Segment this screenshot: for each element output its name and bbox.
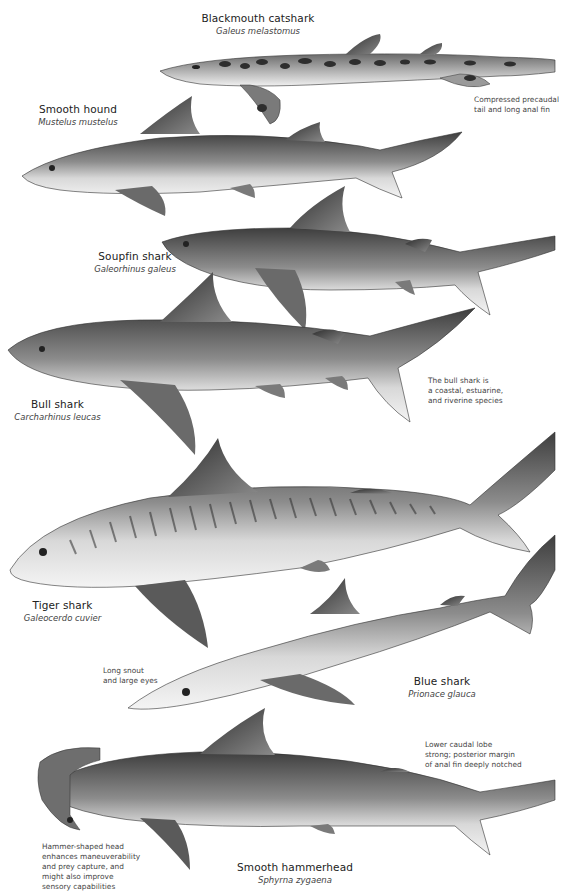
scientific-name: Carcharhinus leucas bbox=[0, 411, 115, 423]
species-label-blue-shark: Blue shark Prionace glauca bbox=[392, 675, 492, 700]
common-name: Smooth hammerhead bbox=[225, 861, 365, 874]
scientific-name: Galeus melastomus bbox=[168, 25, 348, 37]
scientific-name: Mustelus mustelus bbox=[18, 116, 138, 128]
scientific-name: Galeorhinus galeus bbox=[80, 263, 190, 275]
common-name: Bull shark bbox=[0, 398, 115, 411]
note-blue-shark-snout: Long snout and large eyes bbox=[103, 666, 183, 686]
bull-shark-illustration bbox=[8, 272, 475, 455]
note-catshark-tail: Compressed precaudal tail and long anal … bbox=[474, 95, 563, 115]
scientific-name: Prionace glauca bbox=[392, 688, 492, 700]
species-label-bull-shark: Bull shark Carcharhinus leucas bbox=[0, 398, 115, 423]
common-name: Blue shark bbox=[392, 675, 492, 688]
note-bull-shark-habitat: The bull shark is a coastal, estuarine, … bbox=[428, 376, 548, 406]
note-hammerhead-caudal: Lower caudal lobe strong; posterior marg… bbox=[425, 740, 555, 770]
species-label-smooth-hound: Smooth hound Mustelus mustelus bbox=[18, 103, 138, 128]
species-label-tiger-shark: Tiger shark Galeocerdo cuvier bbox=[5, 599, 120, 624]
species-label-soupfin-shark: Soupfin shark Galeorhinus galeus bbox=[80, 250, 190, 275]
common-name: Blackmouth catshark bbox=[168, 12, 348, 25]
species-label-smooth-hammerhead: Smooth hammerhead Sphyrna zygaena bbox=[225, 861, 365, 886]
species-label-blackmouth-catshark: Blackmouth catshark Galeus melastomus bbox=[168, 12, 348, 37]
common-name: Smooth hound bbox=[18, 103, 138, 116]
note-hammerhead-head: Hammer-shaped head enhances maneuverabil… bbox=[42, 842, 162, 892]
common-name: Soupfin shark bbox=[80, 250, 190, 263]
scientific-name: Sphyrna zygaena bbox=[225, 874, 365, 886]
common-name: Tiger shark bbox=[5, 599, 120, 612]
scientific-name: Galeocerdo cuvier bbox=[5, 612, 120, 624]
